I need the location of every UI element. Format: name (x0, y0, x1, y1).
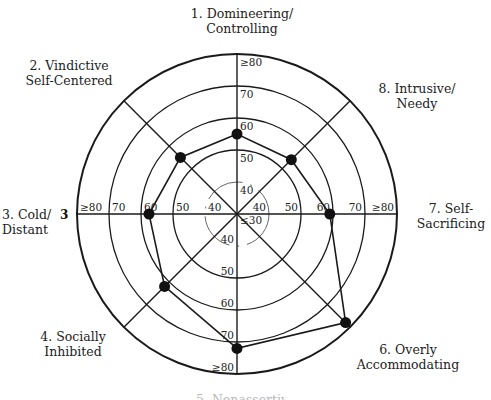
data-point-octant-2 (175, 152, 186, 163)
octant-label-4: 4. Socially Inhibited (28, 329, 118, 359)
data-point-octant-7 (324, 209, 335, 220)
tick-label-octant-5-40: 40 (221, 233, 234, 245)
data-point-octant-1 (232, 129, 243, 140)
tick-label-octant-7-50: 50 (285, 201, 298, 213)
data-point-octant-3 (144, 209, 155, 220)
tick-label-octant-1-60: 60 (240, 120, 253, 132)
tick-label-octant-1-70: 70 (240, 88, 253, 100)
tick-label-octant-7-80: ≥80 (372, 201, 394, 213)
data-point-octant-5 (232, 343, 243, 354)
data-point-octant-4 (159, 281, 170, 292)
octant-label-6: 6. Overly Accommodating (348, 342, 468, 372)
tick-label-octant-3-70: 70 (112, 201, 125, 213)
tick-label-octant-5-50: 50 (221, 265, 234, 277)
spoke-octant-6 (237, 214, 350, 327)
tick-label-octant-3-80: ≥80 (80, 201, 102, 213)
tick-label-octant-3-50: 50 (176, 201, 189, 213)
tick-label-octant-1-80: ≥80 (240, 56, 262, 68)
tick-label-octant-5-80: ≥80 (212, 361, 234, 373)
data-point-octant-8 (286, 154, 297, 165)
octant-label-1: 1. Domineering/ Controlling (187, 6, 297, 36)
tick-label-octant-7-70: 70 (349, 201, 362, 213)
octant-label-7: 7. Self- Sacrificing (413, 201, 489, 231)
octant-label-5: 5. Nonassertive (196, 392, 286, 400)
tick-label-octant-7-40: 40 (253, 201, 266, 213)
tick-label-center: ≤30 (240, 214, 262, 226)
tick-label-octant-1-40: 40 (240, 184, 253, 196)
tick-label-octant-1-50: 50 (240, 152, 253, 164)
octant-label-3: 3. Cold/ Distant (2, 207, 58, 237)
octant-label-2: 2. Vindictive Self-Centered (14, 58, 124, 88)
tick-label-octant-3-40: 40 (208, 201, 221, 213)
tick-label-octant-5-60: 60 (221, 297, 234, 309)
octant-3-marker: 3 (60, 208, 68, 222)
data-point-octant-6 (340, 317, 351, 328)
octant-label-8: 8. Intrusive/ Needy (362, 81, 472, 111)
